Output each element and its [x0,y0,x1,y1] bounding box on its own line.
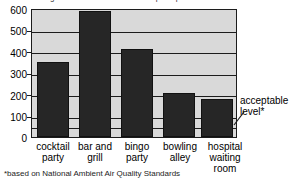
ytickmark-400 [27,52,31,53]
acceptable-level-line2: level* [240,106,301,117]
ytick-400: 400 [1,49,27,59]
xlabel-line: bingo [115,141,159,152]
xlabel-line: waiting [201,152,249,163]
xlabel-line: party [115,152,159,163]
ytickmark-100 [27,117,31,118]
gridline-500 [32,32,236,33]
xlabel-line: hospital [201,141,249,152]
xlabel-bar-and-grill: bar and grill [73,141,117,163]
bar-bar-and-grill [79,11,111,137]
bar-bowling-alley [163,93,195,137]
xlabel-bingo-party: bingo party [115,141,159,163]
xlabel-hospital-waiting-room: hospital waiting room [201,141,249,174]
bar-hospital-waiting-room [201,99,233,137]
xlabel-cocktail-party: cocktail party [31,141,75,163]
xlabel-line: cocktail [31,141,75,152]
ytick-500: 500 [1,27,27,37]
plot-area [31,9,237,138]
xlabel-line: alley [157,152,203,163]
xlabel-line: bar and [73,141,117,152]
ytick-300: 300 [1,70,27,80]
bar-bingo-party [121,49,153,137]
chart-title: average carbon monoxide levels in parts … [30,0,260,2]
acceptable-level-leader-icon [233,112,245,126]
bar-cocktail-party [37,62,69,137]
ytick-100: 100 [1,113,27,123]
ytick-200: 200 [1,92,27,102]
xlabel-line: grill [73,152,117,163]
acceptable-level-annotation: acceptable level* [240,95,301,117]
xlabel-line: party [31,152,75,163]
ytick-600: 600 [1,6,27,16]
xlabel-line: bowling [157,141,203,152]
ytickmark-200 [27,95,31,96]
xlabel-line: room [201,163,249,174]
ytick-0: 0 [1,134,27,144]
acceptable-level-line1: acceptable [240,95,301,106]
ytickmark-500 [27,31,31,32]
ytickmark-300 [27,74,31,75]
chart-footnote: *based on National Ambient Air Quality S… [4,169,180,178]
xlabel-bowling-alley: bowling alley [157,141,203,163]
